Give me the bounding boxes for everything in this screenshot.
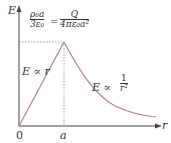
y-axis-arrow-icon	[17, 5, 22, 12]
x-axis-arrow-icon	[155, 124, 162, 129]
outside-annotation-lhs: E ∝	[92, 82, 111, 93]
y-axis-label: E	[8, 5, 16, 16]
inside-line	[19, 42, 64, 126]
x-axis-label: r	[162, 120, 167, 131]
origin-label: 0	[16, 130, 23, 141]
outside-annotation-fraction: 1 r²	[120, 74, 128, 94]
a-tick-label: a	[60, 130, 67, 141]
inside-annotation: E ∝ r	[22, 66, 50, 77]
peak-fraction-2: Q 4πε₀a²	[60, 10, 89, 30]
outside-curve	[64, 42, 156, 117]
peak-equals: =	[50, 16, 58, 27]
peak-fraction-1: ρ₀a 3ε₀	[30, 10, 44, 30]
